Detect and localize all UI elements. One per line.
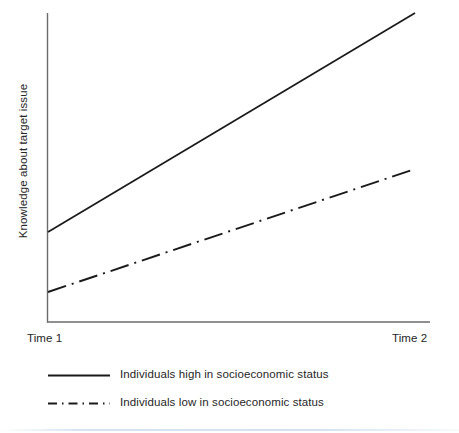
chart-legend: Individuals high in socioeconomic status… bbox=[0, 362, 459, 418]
legend-item-high-ses: Individuals high in socioeconomic status bbox=[0, 362, 459, 390]
series-line-low-ses bbox=[48, 170, 412, 292]
legend-label-low-ses: Individuals low in socioeconomic status bbox=[120, 394, 324, 410]
series-line-high-ses bbox=[48, 13, 415, 232]
x-tick-label-time-2: Time 2 bbox=[392, 331, 427, 345]
scan-edge-artifact bbox=[0, 429, 459, 431]
legend-swatch-dash-dot-line-icon bbox=[48, 402, 110, 405]
legend-label-high-ses: Individuals high in socioeconomic status bbox=[120, 366, 329, 382]
legend-swatch-solid-line-icon bbox=[48, 374, 110, 377]
x-tick-label-time-1: Time 1 bbox=[27, 331, 62, 345]
legend-item-low-ses: Individuals low in socioeconomic status bbox=[0, 390, 459, 418]
y-axis-title: Knowledge about target issue bbox=[13, 6, 33, 316]
knowledge-gap-chart-figure: Knowledge about target issue Time 1 Time… bbox=[0, 0, 459, 433]
y-axis-title-label: Knowledge about target issue bbox=[13, 6, 33, 316]
